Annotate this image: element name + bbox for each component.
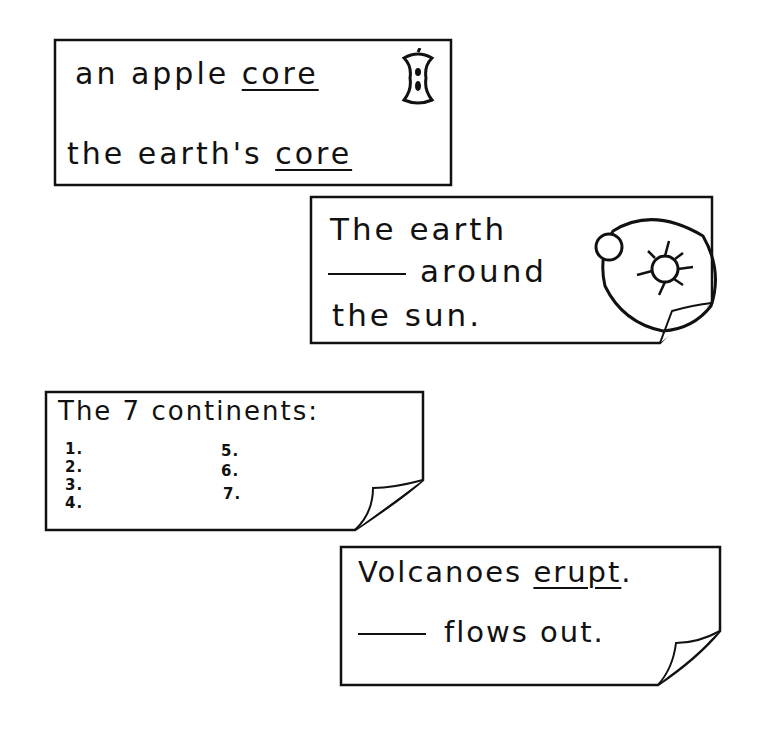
line-volcanoes-erupt: Volcanoes erupt. bbox=[358, 555, 633, 589]
fill-in-blank bbox=[358, 633, 426, 635]
continents-title: The 7 continents: bbox=[58, 396, 319, 426]
word-core-underlined: core bbox=[275, 136, 352, 171]
card-volcanoes: Volcanoes erupt. flows out. bbox=[338, 543, 723, 691]
text-the-earth: The earth bbox=[330, 211, 507, 247]
earth-sun-orbit-icon bbox=[593, 211, 718, 346]
text-flows-out: flows out. bbox=[444, 615, 605, 649]
word-core-underlined: core bbox=[242, 56, 319, 91]
list-item-3: 3. bbox=[65, 476, 83, 494]
card-apple-core: an apple core the earth's core bbox=[53, 38, 453, 188]
list-item-4: 4. bbox=[65, 494, 83, 512]
line-apple-core: an apple core bbox=[75, 56, 319, 91]
text-an-apple: an apple bbox=[75, 56, 242, 91]
apple-core-icon bbox=[398, 48, 438, 106]
list-item-7: 7. bbox=[223, 485, 241, 503]
period: . bbox=[621, 555, 632, 589]
line-around: around bbox=[328, 253, 547, 289]
word-erupt-underlined: erupt bbox=[533, 555, 621, 589]
text-the-sun: the sun. bbox=[332, 297, 482, 333]
fill-in-blank bbox=[328, 273, 406, 275]
line-flows-out: flows out. bbox=[358, 615, 605, 649]
line-earths-core: the earth's core bbox=[67, 136, 352, 171]
text-the-earths: the earth's bbox=[67, 136, 275, 171]
card-continents: The 7 continents: 1. 2. 3. 4. 5. 6. 7. bbox=[43, 388, 428, 533]
list-item-1: 1. bbox=[65, 440, 83, 458]
card-earth-orbit: The earth around the sun. bbox=[308, 193, 718, 348]
list-item-2: 2. bbox=[65, 458, 83, 476]
text-volcanoes: Volcanoes bbox=[358, 555, 533, 589]
list-item-6: 6. bbox=[221, 462, 239, 480]
text-around: around bbox=[420, 253, 547, 289]
list-item-5: 5. bbox=[221, 442, 239, 460]
